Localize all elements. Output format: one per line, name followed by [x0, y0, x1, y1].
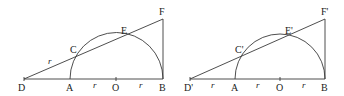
- label-C-prime: C': [235, 44, 244, 55]
- radius-label-AO: r: [93, 80, 97, 90]
- figure-right: D' A O B C' E' F' r r r: [184, 6, 329, 93]
- label-O: O: [112, 82, 119, 93]
- secant-DF: [190, 19, 325, 79]
- figure-left: D A O B C E F r r r: [18, 6, 166, 93]
- label-A: A: [231, 82, 239, 93]
- radius-label-OB: r: [302, 80, 306, 90]
- radius-label-DC: r: [48, 56, 52, 66]
- label-C: C: [70, 44, 77, 55]
- label-F-prime: F': [321, 6, 329, 17]
- label-A: A: [66, 82, 74, 93]
- radius-label-OB: r: [139, 80, 143, 90]
- label-E: E: [121, 25, 127, 36]
- label-D-prime: D': [184, 82, 193, 93]
- secant-DF: [24, 19, 163, 79]
- semicircle: [235, 34, 325, 79]
- geometry-diagram: D A O B C E F r r r D' A O B C' E' F' r …: [0, 0, 344, 96]
- label-E-prime: E': [285, 25, 293, 36]
- label-D: D: [18, 82, 25, 93]
- label-B: B: [159, 82, 166, 93]
- label-O: O: [276, 82, 283, 93]
- label-F: F: [159, 6, 165, 17]
- radius-label-DA: r: [211, 80, 215, 90]
- radius-label-AO: r: [256, 80, 260, 90]
- label-B: B: [321, 82, 328, 93]
